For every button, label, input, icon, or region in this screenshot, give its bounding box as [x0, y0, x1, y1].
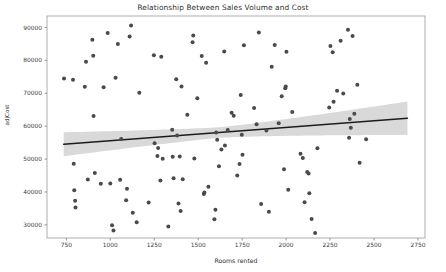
data-point: [159, 55, 163, 59]
data-point: [129, 24, 133, 28]
data-point: [313, 231, 317, 235]
data-point: [191, 40, 195, 44]
data-point: [259, 202, 263, 206]
data-point: [119, 137, 123, 141]
data-point: [213, 208, 217, 212]
data-point: [307, 191, 311, 195]
data-point: [195, 96, 199, 100]
data-point: [111, 228, 115, 232]
data-point: [239, 93, 243, 97]
data-point: [264, 128, 268, 132]
data-point: [346, 28, 350, 32]
data-point: [137, 91, 141, 95]
data-point: [161, 157, 165, 161]
data-point: [310, 217, 314, 221]
data-point: [110, 223, 114, 227]
data-point: [339, 39, 343, 43]
data-point: [240, 133, 244, 137]
data-point: [301, 156, 305, 160]
data-point: [290, 110, 294, 114]
y-tick-label: 30000: [0, 222, 42, 228]
data-point: [71, 78, 75, 82]
data-point: [280, 94, 284, 98]
x-tick-label: 1250: [147, 242, 162, 248]
data-point: [226, 128, 230, 132]
data-point: [204, 61, 208, 65]
data-point: [179, 209, 183, 213]
data-point: [327, 105, 331, 109]
data-point: [299, 152, 303, 156]
data-point: [341, 92, 345, 96]
x-axis-label: Rooms rented: [46, 257, 426, 264]
data-point: [348, 117, 352, 121]
data-point: [241, 153, 245, 157]
data-point: [267, 210, 271, 214]
y-tick-label: 40000: [0, 189, 42, 195]
x-tick-label: 750: [61, 242, 72, 248]
data-point: [86, 177, 90, 181]
data-point: [106, 31, 110, 35]
data-point: [202, 191, 206, 195]
data-point: [192, 156, 196, 160]
data-point: [212, 217, 216, 221]
data-point: [235, 174, 239, 178]
data-point: [118, 178, 122, 182]
data-point: [286, 188, 290, 192]
data-point: [99, 182, 103, 186]
scatter-plot-canvas: [0, 0, 446, 272]
data-point: [351, 34, 355, 38]
data-point: [177, 201, 181, 205]
data-point: [178, 154, 182, 158]
data-point: [170, 128, 174, 132]
data-point: [171, 155, 175, 159]
data-point: [102, 85, 106, 89]
data-point: [191, 33, 195, 37]
data-point: [135, 220, 139, 224]
data-point: [83, 85, 87, 89]
data-point: [206, 185, 210, 189]
data-point: [222, 50, 226, 54]
x-tick-label: 2750: [410, 242, 425, 248]
x-tick-label: 2250: [323, 242, 338, 248]
data-point: [255, 122, 259, 126]
data-point: [73, 205, 77, 209]
data-point: [331, 50, 335, 54]
data-point: [270, 65, 274, 69]
data-point: [257, 30, 261, 34]
x-tick-label: 2500: [367, 242, 382, 248]
data-point: [349, 126, 353, 130]
data-point: [358, 161, 362, 165]
data-point: [242, 43, 246, 47]
data-point: [303, 200, 307, 204]
data-point: [84, 60, 88, 64]
data-point: [180, 84, 184, 88]
data-point: [153, 141, 157, 145]
y-tick-label: 80000: [0, 57, 42, 63]
data-point: [335, 89, 339, 93]
data-point: [91, 54, 95, 58]
data-point: [284, 50, 288, 54]
data-point: [252, 106, 256, 110]
data-point: [352, 112, 356, 116]
chart-figure: Relationship Between Sales Volume and Co…: [0, 0, 446, 272]
data-point: [108, 181, 112, 185]
data-point: [156, 146, 160, 150]
data-point: [332, 100, 336, 104]
data-point: [181, 177, 185, 181]
data-point: [219, 148, 223, 152]
x-tick-label: 1000: [103, 242, 118, 248]
x-tick-label: 2000: [279, 242, 294, 248]
data-point: [175, 133, 179, 137]
data-point: [152, 53, 156, 57]
data-point: [315, 146, 319, 150]
data-point: [284, 84, 288, 88]
x-tick-label: 1750: [235, 242, 250, 248]
data-point: [328, 44, 332, 48]
data-point: [147, 200, 151, 204]
data-point: [307, 172, 311, 176]
data-point: [72, 188, 76, 192]
data-point: [124, 198, 128, 202]
data-point: [277, 121, 281, 125]
data-point: [347, 136, 351, 140]
data-point: [232, 114, 236, 118]
